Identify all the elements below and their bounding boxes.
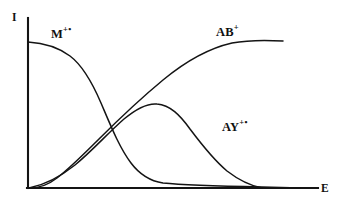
curve-label-m-radical-cation: M+•: [51, 26, 71, 41]
curve-label-m-superscript: +•: [63, 24, 71, 34]
curve-ab-cation: [30, 40, 283, 188]
curve-label-ab-superscript: +: [234, 22, 239, 32]
curve-label-ab-cation: AB+: [216, 24, 239, 39]
breakdown-graph-figure: I E M+• AB+ AY+•: [0, 0, 343, 207]
curve-label-m-base: M: [51, 27, 63, 41]
curve-label-ab-base: AB: [216, 25, 234, 39]
curve-ay-radical-cation: [29, 104, 262, 188]
curve-m-radical-cation: [28, 42, 300, 188]
curve-label-ay-superscript: +•: [239, 117, 247, 127]
axes-group: [27, 18, 318, 188]
curve-label-ay-base: AY: [222, 120, 239, 134]
curves-group: [28, 40, 300, 188]
curve-label-ay-radical-cation: AY+•: [222, 119, 248, 134]
y-axis-label: I: [12, 12, 17, 24]
x-axis-label: E: [321, 183, 329, 195]
